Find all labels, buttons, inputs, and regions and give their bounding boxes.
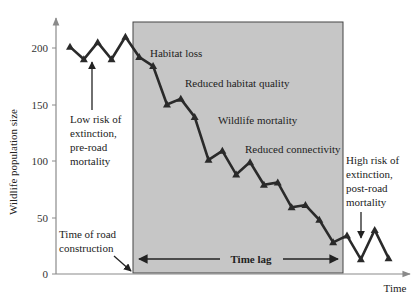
x-axis-label: Time [384, 282, 407, 294]
triangle-marker-icon [121, 33, 129, 40]
annotation-reduced-habitat-quality: Reduced habitat quality [185, 77, 290, 89]
triangle-marker-icon [94, 38, 102, 45]
annotation-high-risk: High risk of extinction, post-road morta… [346, 154, 400, 238]
triangle-marker-icon [371, 226, 379, 233]
svg-text:Time lag: Time lag [230, 253, 272, 265]
y-tick-0: 0 [43, 268, 49, 280]
y-axis-label: Wildlife population size [7, 109, 19, 215]
annotation-road-construction: Time of road construction [59, 228, 131, 271]
svg-text:post-road: post-road [346, 182, 388, 194]
y-tick-200: 200 [32, 42, 49, 54]
annotation-reduced-connectivity: Reduced connectivity [245, 143, 341, 155]
y-tick-100: 100 [32, 155, 49, 167]
annotation-wildlife-mortality: Wildlife mortality [218, 114, 298, 126]
annotation-low-risk: Low risk of extinction, pre-road mortali… [70, 62, 122, 167]
triangle-marker-icon [66, 43, 74, 50]
y-ticks: 0 50 100 150 200 [32, 42, 57, 280]
svg-text:extinction,: extinction, [70, 127, 117, 139]
svg-text:pre-road: pre-road [70, 141, 108, 153]
y-tick-150: 150 [32, 99, 49, 111]
svg-text:Time of road: Time of road [59, 228, 117, 240]
triangle-marker-icon [343, 232, 351, 239]
svg-text:High risk of: High risk of [346, 154, 400, 166]
annotation-habitat-loss: Habitat loss [150, 47, 202, 59]
svg-text:mortality: mortality [70, 155, 111, 167]
population-chart: 0 50 100 150 200 Wildlife population siz… [0, 0, 418, 306]
svg-text:construction: construction [59, 242, 114, 254]
svg-text:mortality: mortality [346, 196, 387, 208]
svg-text:extinction,: extinction, [346, 168, 393, 180]
svg-text:Low risk of: Low risk of [70, 113, 122, 125]
y-tick-50: 50 [37, 212, 49, 224]
